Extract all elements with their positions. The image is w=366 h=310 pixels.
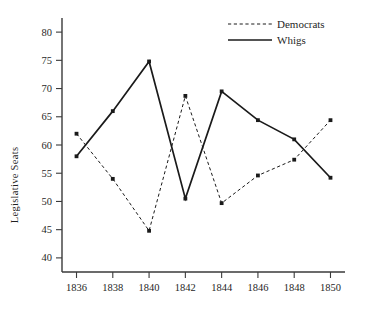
legend-label-whigs: Whigs [277,34,306,46]
data-point-democrats [329,118,333,122]
line-chart: 404550556065707580 183618381840184218441… [0,0,366,310]
data-point-democrats [256,174,260,178]
data-point-whigs [147,60,151,64]
x-tick-label: 1836 [66,282,87,293]
x-tick-label: 1842 [175,282,196,293]
series-group [75,60,333,233]
x-tick-label: 1844 [211,282,233,293]
x-tick-label: 1838 [102,282,123,293]
chart-container: 404550556065707580 183618381840184218441… [0,0,366,310]
x-tick-label: 1840 [139,282,160,293]
series-line-democrats [77,96,331,231]
data-point-whigs [292,137,296,141]
data-point-whigs [75,154,79,158]
x-tick-label: 1846 [247,282,268,293]
data-point-whigs [220,89,224,93]
y-tick-label: 60 [42,140,53,151]
data-point-democrats [292,158,296,162]
data-point-whigs [256,118,260,122]
y-tick-label: 65 [42,111,53,122]
chart-legend: DemocratsWhigs [228,18,325,46]
data-point-democrats [147,229,151,233]
legend-label-democrats: Democrats [277,18,325,30]
y-tick-label: 75 [42,55,53,66]
y-tick-label: 55 [42,168,53,179]
y-tick-group: 404550556065707580 [42,27,63,264]
data-point-democrats [220,201,224,205]
data-point-democrats [183,94,187,98]
data-point-whigs [111,109,115,113]
x-tick-label: 1850 [320,282,341,293]
data-point-democrats [75,132,79,136]
data-point-whigs [183,197,187,201]
data-point-democrats [111,177,115,181]
x-tick-group: 18361838184018421844184618481850 [66,272,341,293]
x-tick-label: 1848 [284,282,305,293]
y-tick-label: 70 [42,83,53,94]
y-tick-label: 80 [42,27,53,38]
y-tick-label: 45 [42,224,53,235]
data-point-whigs [329,176,333,180]
y-tick-label: 40 [42,252,53,263]
y-tick-label: 50 [42,196,53,207]
y-axis-title: Legislative Seats [9,147,20,224]
